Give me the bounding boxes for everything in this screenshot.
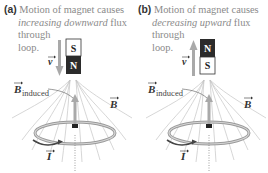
b-induced-subscript: induced xyxy=(156,88,184,98)
magnet-pole-top: S xyxy=(71,43,77,54)
magnet-pole-top: N xyxy=(204,43,212,54)
bar-magnet: S N xyxy=(66,39,81,74)
diagram-a: S N v B induced B I xyxy=(0,0,134,173)
magnet-pole-bottom: S xyxy=(205,60,211,71)
velocity-arrow xyxy=(58,40,61,68)
b-induced-subscript: induced xyxy=(22,88,50,98)
b-induced-arrow xyxy=(208,100,211,126)
b-field-label: B xyxy=(243,98,251,110)
panel-b: (b) Motion of magnet causes decreasing u… xyxy=(134,0,268,173)
bar-magnet: N S xyxy=(200,39,215,74)
velocity-label: v xyxy=(48,56,53,67)
b-induced-label: B xyxy=(147,83,155,95)
current-label: I xyxy=(46,150,52,162)
b-field-label: B xyxy=(109,98,117,110)
b-induced-label: B xyxy=(13,83,21,95)
b-induced-arrow xyxy=(74,100,77,126)
current-label: I xyxy=(180,150,186,162)
velocity-label: v xyxy=(182,56,187,67)
magnet-pole-bottom: N xyxy=(70,60,78,71)
velocity-arrow xyxy=(192,48,195,76)
panel-a: (a) Motion of magnet causes increasing d… xyxy=(0,0,134,173)
diagram-b: N S v B induced B I xyxy=(134,0,268,173)
